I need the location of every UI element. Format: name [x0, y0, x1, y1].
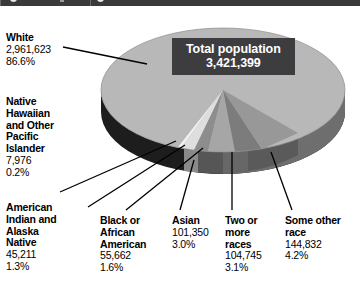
- label-american-indian-name-line-2: Indian and: [6, 214, 57, 226]
- label-some-other-race-percent: 4.2%: [285, 250, 341, 262]
- pie-chart-figure: Total population 3,421,399 White 2,961,6…: [0, 0, 360, 295]
- total-population-label: Total population: [186, 42, 281, 56]
- label-asian-percent: 3.0%: [172, 239, 209, 251]
- label-two-or-more-races-percent: 3.1%: [225, 262, 262, 274]
- window-title-strip: [0, 0, 360, 6]
- strip-divider-left: [0, 0, 1, 6]
- pie-side-wall-5: [184, 149, 198, 173]
- strip-glyph-icon: [10, 0, 17, 2]
- label-black-african-american-name-line-2: African: [100, 227, 146, 239]
- strip-divider: [90, 0, 91, 6]
- label-american-indian-name-line-1: American: [6, 202, 57, 214]
- pie-side-wall-3: [223, 151, 248, 175]
- label-some-other-race-name-line-1: Some other: [285, 215, 341, 227]
- strip-glyph-2-icon: [60, 0, 64, 2]
- label-black-african-american-percent: 1.6%: [100, 262, 146, 274]
- label-native-hawaiian-name-line-2: Hawaiian: [6, 108, 54, 120]
- label-native-hawaiian-value: 7,976: [6, 155, 54, 167]
- strip-glyph-3-icon: [97, 0, 104, 2]
- label-white-name: White: [6, 32, 51, 44]
- label-asian-value: 101,350: [172, 227, 209, 239]
- label-american-indian: American Indian and Alaska Native 45,211…: [6, 202, 57, 273]
- label-native-hawaiian-percent: 0.2%: [6, 167, 54, 179]
- label-white-value: 2,961,623: [6, 44, 51, 56]
- label-asian: Asian 101,350 3.0%: [172, 215, 209, 250]
- label-white-percent: 86.6%: [6, 56, 51, 68]
- total-population-value: 3,421,399: [186, 56, 281, 70]
- label-native-hawaiian: Native Hawaiian and Other Pacific Island…: [6, 96, 54, 178]
- total-population-callout: Total population 3,421,399: [172, 38, 295, 75]
- label-asian-name: Asian: [172, 215, 209, 227]
- label-native-hawaiian-name-line-5: Islander: [6, 143, 54, 155]
- label-some-other-race: Some other race 144,832 4.2%: [285, 215, 341, 262]
- label-black-african-american-name-line-1: Black or: [100, 215, 146, 227]
- label-american-indian-percent: 1.3%: [6, 261, 57, 273]
- label-two-or-more-races: Two or more races 104,745 3.1%: [225, 215, 262, 274]
- label-two-or-more-races-name-line-1: Two or: [225, 215, 262, 227]
- pie-side-wall-4: [198, 151, 223, 175]
- label-white: White 2,961,623 86.6%: [6, 32, 51, 67]
- label-black-african-american: Black or African American 55,662 1.6%: [100, 215, 146, 274]
- label-two-or-more-races-name-line-2: more: [225, 227, 262, 239]
- label-some-other-race-name-line-2: race: [285, 227, 341, 239]
- label-native-hawaiian-name-line-1: Native: [6, 96, 54, 108]
- label-american-indian-value: 45,211: [6, 249, 57, 261]
